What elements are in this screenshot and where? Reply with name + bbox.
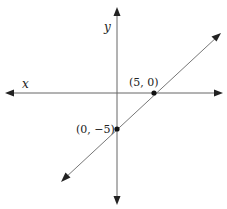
y-axis-up-arrow-icon: [114, 7, 121, 16]
point-0-neg5: [114, 126, 119, 131]
y-axis-label: y: [103, 20, 111, 34]
y-axis: [114, 7, 121, 205]
x-axis-right-arrow-icon: [214, 90, 223, 97]
x-axis-left-arrow-icon: [5, 90, 14, 97]
coordinate-diagram: x y (5, 0) (0, −5): [0, 0, 227, 209]
point-label-0-neg5: (0, −5): [76, 123, 115, 136]
x-axis-label: x: [22, 77, 29, 91]
y-axis-down-arrow-icon: [114, 196, 121, 205]
x-axis: [5, 90, 223, 97]
point-5-0: [151, 90, 156, 95]
graph-line: [61, 33, 221, 182]
point-label-5-0: (5, 0): [129, 76, 159, 89]
